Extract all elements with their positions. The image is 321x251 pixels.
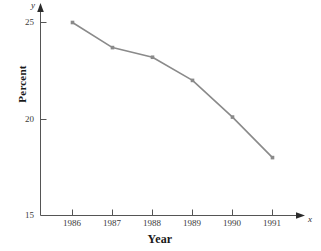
data-point-1988 — [151, 55, 155, 59]
x-axis-variable-label: x — [308, 214, 312, 224]
data-line-percent — [73, 23, 273, 158]
data-point-1986 — [71, 21, 75, 25]
y-axis-arrowhead — [37, 3, 44, 12]
data-point-1990 — [231, 115, 235, 119]
x-tick-label-1986: 1986 — [52, 218, 92, 228]
x-tick-label-1989: 1989 — [172, 218, 212, 228]
chart-figure: y x 25 20 15 1986 1987 1988 1989 1990 19… — [0, 0, 321, 251]
y-tick-label-25: 25 — [12, 17, 34, 27]
data-markers-percent — [71, 21, 275, 160]
line-chart-canvas — [0, 0, 321, 251]
y-tick-label-15: 15 — [12, 210, 34, 220]
x-axis-arrowhead — [296, 212, 305, 219]
x-tick-label-1988: 1988 — [132, 218, 172, 228]
data-point-1987 — [111, 46, 115, 50]
data-point-1989 — [191, 79, 195, 83]
data-point-1991 — [271, 156, 275, 160]
y-axis-variable-label: y — [31, 0, 35, 10]
x-axis-title: Year — [120, 232, 200, 247]
x-tick-label-1990: 1990 — [212, 218, 252, 228]
x-tick-label-1987: 1987 — [92, 218, 132, 228]
x-tick-label-1991: 1991 — [252, 218, 292, 228]
y-axis-title: Percent — [16, 44, 28, 124]
